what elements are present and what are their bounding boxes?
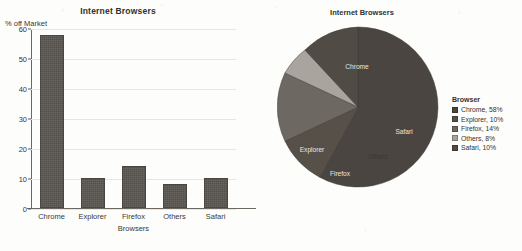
legend-swatch-others [452, 135, 458, 141]
bar-others [163, 184, 187, 208]
bar-chart-title: Internet Browsers [0, 6, 236, 16]
legend-label-chrome: Chrome, 58% [461, 106, 503, 113]
gridline-0: 0 [31, 209, 236, 210]
bar-slot-safari [195, 29, 236, 208]
pie-label-explorer: Explorer [300, 146, 325, 154]
bar-chrome [40, 35, 64, 208]
bar-slot-explorer [72, 29, 113, 208]
legend-swatch-explorer [452, 116, 458, 122]
legend-label-explorer: Explorer, 10% [461, 116, 503, 123]
xtick-label-explorer: Explorer [72, 212, 113, 221]
bar-chart-panel: Internet Browsers % off Market 60 50 40 … [0, 0, 255, 251]
xtick-label-safari: Safari [195, 212, 236, 221]
xtick-label-firefox: Firefox [113, 212, 154, 221]
legend-swatch-firefox [452, 126, 458, 132]
xtick-label-others: Others [154, 212, 195, 221]
legend-swatch-chrome [452, 107, 458, 113]
bar-slot-firefox [113, 29, 154, 208]
pie-chart-legend: Browser Chrome, 58% Explorer, 10% Firefo… [452, 96, 522, 154]
bar-safari [204, 178, 228, 208]
legend-label-firefox: Firefox, 14% [461, 125, 499, 132]
legend-item-safari[interactable]: Safari, 10% [452, 144, 522, 151]
ytick-mark-0 [28, 209, 31, 210]
legend-item-chrome[interactable]: Chrome, 58% [452, 106, 522, 113]
ytick-label-20: 20 [19, 145, 27, 154]
bar-chart-x-tick-labels: Chrome Explorer Firefox Others Safari [31, 212, 236, 221]
pie-chart-title: Internet Browsers [272, 8, 452, 17]
ytick-label-60: 60 [19, 25, 27, 34]
bar-slot-others [154, 29, 195, 208]
xtick-label-chrome: Chrome [31, 212, 72, 221]
legend-swatch-safari [452, 145, 458, 151]
pie-chart-panel: Internet Browsers Chrome Explorer Firefo… [262, 0, 522, 251]
bar-slot-chrome [31, 29, 72, 208]
ytick-label-30: 30 [19, 115, 27, 124]
ytick-label-10: 10 [19, 174, 27, 183]
bar-series [31, 29, 236, 208]
bar-chart-plot-area: 60 50 40 30 20 10 0 [31, 29, 236, 209]
pie-label-firefox: Firefox [330, 170, 351, 177]
ytick-label-50: 50 [19, 55, 27, 64]
pie-chart-graphic: Chrome Explorer Firefox Others Safari [277, 26, 439, 188]
legend-item-explorer[interactable]: Explorer, 10% [452, 116, 522, 123]
legend-item-others[interactable]: Others, 8% [452, 135, 522, 142]
bar-explorer [81, 178, 105, 208]
legend-label-others: Others, 8% [461, 135, 495, 142]
legend-item-firefox[interactable]: Firefox, 14% [452, 125, 522, 132]
legend-label-safari: Safari, 10% [461, 144, 496, 151]
ytick-label-40: 40 [19, 84, 27, 93]
ytick-label-0: 0 [23, 205, 27, 214]
pie-svg: Chrome Explorer Firefox Others Safari [277, 26, 439, 188]
legend-title: Browser [452, 96, 522, 103]
pie-label-chrome: Chrome [345, 63, 369, 70]
pie-label-others: Others [368, 153, 388, 160]
bar-firefox [122, 166, 146, 208]
pie-label-safari: Safari [395, 128, 413, 135]
bar-chart-x-axis-label: Browsers [31, 224, 236, 233]
